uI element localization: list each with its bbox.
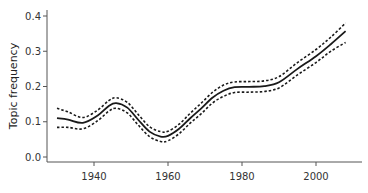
- series-lines: [57, 23, 346, 142]
- y-tick-label: 0.1: [25, 116, 41, 127]
- y-tick-label: 0.3: [25, 46, 41, 57]
- confidence-bound-line: [57, 42, 346, 141]
- y-ticks: 0.00.10.20.30.4: [25, 11, 47, 163]
- y-axis-label: Topic frequency: [7, 42, 20, 130]
- x-ticks: 1940196019802000: [81, 162, 328, 182]
- x-tick-label: 1960: [155, 171, 180, 182]
- y-tick-label: 0.4: [25, 11, 41, 22]
- y-tick-label: 0.0: [25, 152, 41, 163]
- x-tick-label: 2000: [303, 171, 328, 182]
- x-tick-label: 1980: [229, 171, 254, 182]
- mean-line: [57, 31, 346, 137]
- y-tick-label: 0.2: [25, 81, 41, 92]
- confidence-bound-line: [57, 23, 346, 132]
- x-tick-label: 1940: [81, 171, 106, 182]
- topic-frequency-chart: 0.00.10.20.30.4 1940196019802000 Topic f…: [0, 0, 368, 193]
- axes: 0.00.10.20.30.4 1940196019802000 Topic f…: [7, 10, 362, 182]
